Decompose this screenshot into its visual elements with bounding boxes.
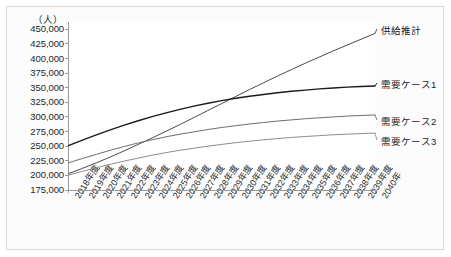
series-line-1 (69, 33, 376, 173)
series-line-2 (69, 86, 376, 146)
chart-figure: （人） 175,000200,000225,000250,000275,0003… (0, 0, 451, 257)
series-group (69, 33, 376, 175)
series-leader-line-2 (375, 83, 377, 86)
leader-lines-group (375, 29, 377, 140)
chart-canvas (0, 0, 451, 257)
series-leader-line-3 (375, 115, 377, 120)
series-leader-line-4 (375, 133, 377, 140)
series-leader-line-1 (375, 29, 377, 33)
series-line-4 (69, 133, 376, 175)
axes-group (65, 22, 375, 193)
